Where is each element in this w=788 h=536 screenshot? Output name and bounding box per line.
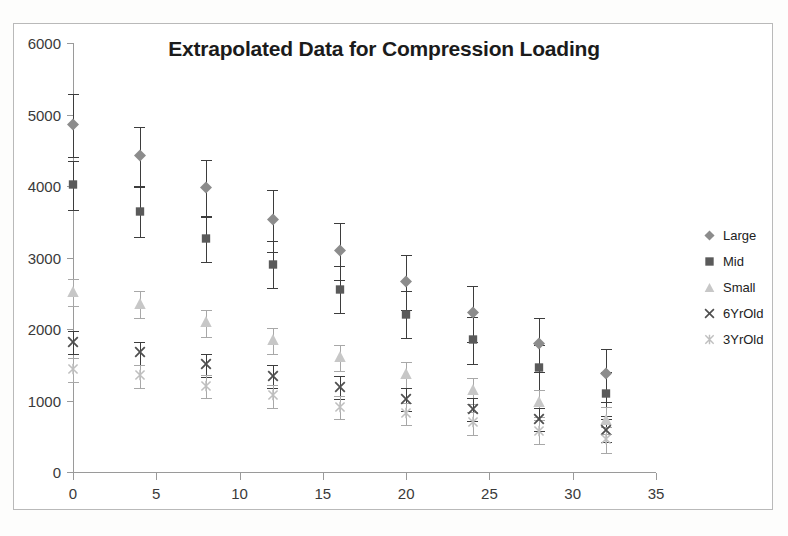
error-bar-cap	[467, 286, 478, 287]
error-bar-cap	[68, 94, 79, 95]
x-axis-tick	[240, 473, 241, 480]
error-bar-cap	[267, 365, 278, 366]
error-bar-cap	[267, 190, 278, 191]
data-point-large	[533, 336, 546, 354]
error-bar-cap	[334, 419, 345, 420]
legend-item-mid: Mid	[704, 248, 788, 274]
y-axis-tick-label: 1000	[15, 392, 61, 409]
x-axis-tick	[406, 473, 407, 480]
data-point-large	[600, 366, 613, 384]
error-bar-cap	[267, 408, 278, 409]
error-bar-cap	[201, 160, 212, 161]
legend-marker-x-icon	[704, 305, 720, 321]
y-axis-tick-label: 6000	[15, 35, 61, 52]
error-bar-cap	[534, 444, 545, 445]
data-point-3yrold	[467, 414, 479, 432]
x-axis-tick-label: 10	[220, 485, 260, 502]
x-axis-tick	[323, 473, 324, 480]
x-axis-tick-label: 25	[469, 485, 509, 502]
data-point-mid	[267, 256, 278, 274]
legend-label: 6YrOld	[723, 306, 763, 321]
y-axis-tick	[67, 258, 73, 259]
error-bar-cap	[334, 313, 345, 314]
data-point-mid	[601, 385, 612, 403]
data-point-small	[466, 382, 479, 400]
error-bar-cap	[267, 354, 278, 355]
error-bar-cap	[534, 318, 545, 319]
error-bar-cap	[201, 337, 212, 338]
data-point-small	[533, 394, 546, 412]
x-axis-tick-label: 5	[136, 485, 176, 502]
legend-item-large: Large	[704, 222, 788, 248]
error-bar-cap	[134, 237, 145, 238]
legend-marker-diamond-icon	[704, 227, 720, 243]
data-point-small	[67, 284, 80, 302]
error-bar-cap	[201, 398, 212, 399]
chart-frame: Extrapolated Data for Compression Loadin…	[13, 23, 773, 510]
error-bar-cap	[68, 331, 79, 332]
error-bar-cap	[201, 216, 212, 217]
data-point-3yrold	[533, 423, 545, 441]
error-bar-cap	[601, 407, 612, 408]
data-point-3yrold	[334, 399, 346, 417]
legend-label: Mid	[723, 254, 744, 269]
legend-label: Large	[723, 228, 756, 243]
x-axis-tick-label: 20	[386, 485, 426, 502]
error-bar-cap	[134, 388, 145, 389]
data-point-mid	[334, 281, 345, 299]
scanned-page: Extrapolated Data for Compression Loadin…	[0, 0, 788, 536]
data-point-mid	[68, 176, 79, 194]
error-bar-cap	[134, 318, 145, 319]
legend-item-small: Small	[704, 274, 788, 300]
data-point-large	[266, 212, 279, 230]
error-bar-cap	[134, 291, 145, 292]
data-point-large	[466, 305, 479, 323]
error-bar-cap	[334, 345, 345, 346]
x-axis-tick-label: 30	[553, 485, 593, 502]
error-bar-cap	[201, 310, 212, 311]
legend-item-6yrold: 6YrOld	[704, 300, 788, 326]
data-point-large	[333, 243, 346, 261]
error-bar-cap	[601, 349, 612, 350]
legend-item-3yrold: 3YrOld	[704, 326, 788, 352]
data-point-small	[133, 296, 146, 314]
x-axis-line	[73, 472, 656, 473]
error-bar-cap	[401, 425, 412, 426]
error-bar-cap	[68, 210, 79, 211]
error-bar-cap	[534, 390, 545, 391]
x-axis-tick	[156, 473, 157, 480]
data-point-mid	[401, 306, 412, 324]
error-bar-cap	[401, 255, 412, 256]
data-point-3yrold	[134, 367, 146, 385]
error-bar-cap	[68, 382, 79, 383]
error-bar-cap	[201, 375, 212, 376]
data-point-large	[400, 274, 413, 292]
y-axis-tick-label: 4000	[15, 178, 61, 195]
data-point-3yrold	[200, 378, 212, 396]
error-bar-cap	[134, 187, 145, 188]
data-point-mid	[467, 331, 478, 349]
data-point-6yrold	[67, 334, 79, 352]
data-point-6yrold	[334, 379, 346, 397]
data-point-3yrold	[267, 387, 279, 405]
error-bar-cap	[201, 262, 212, 263]
data-point-mid	[201, 230, 212, 248]
chart-legend: LargeMidSmall6YrOld3YrOld	[704, 222, 788, 352]
data-point-large	[200, 180, 213, 198]
plot-area: 010002000300040005000600005101520253035	[14, 24, 774, 511]
x-axis-tick-label: 15	[303, 485, 343, 502]
error-bar-cap	[401, 362, 412, 363]
error-bar-cap	[267, 288, 278, 289]
error-bar-cap	[334, 371, 345, 372]
data-point-small	[200, 314, 213, 332]
error-bar-cap	[68, 358, 79, 359]
x-axis-tick-label: 0	[53, 485, 93, 502]
y-axis-tick	[67, 401, 73, 402]
error-bar-cap	[201, 354, 212, 355]
error-bar-cap	[601, 453, 612, 454]
data-point-3yrold	[600, 431, 612, 449]
error-bar-cap	[267, 328, 278, 329]
error-bar-cap	[467, 364, 478, 365]
error-bar-cap	[334, 266, 345, 267]
error-bar-cap	[334, 376, 345, 377]
